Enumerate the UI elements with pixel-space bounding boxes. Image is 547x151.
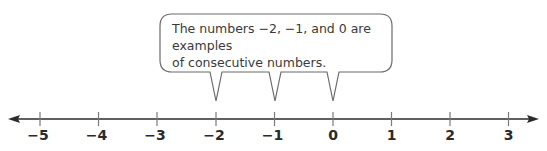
tick-label: −2 [199, 127, 229, 143]
tick-label: 1 [377, 127, 407, 143]
tick-label: 3 [494, 127, 524, 143]
number-line-diagram: The numbers −2, −1, and 0 are examples o… [0, 0, 547, 151]
callout-line-2: of consecutive numbers. [172, 54, 392, 71]
tick-label: 0 [318, 127, 348, 143]
callout-text: The numbers −2, −1, and 0 are examples o… [172, 20, 392, 71]
tick-label: −4 [82, 127, 112, 143]
tick-label: −5 [23, 127, 53, 143]
tick-label: 2 [435, 127, 465, 143]
tick-label: −1 [258, 127, 288, 143]
tick-label: −3 [140, 127, 170, 143]
callout-line-1: The numbers −2, −1, and 0 are examples [172, 20, 392, 54]
